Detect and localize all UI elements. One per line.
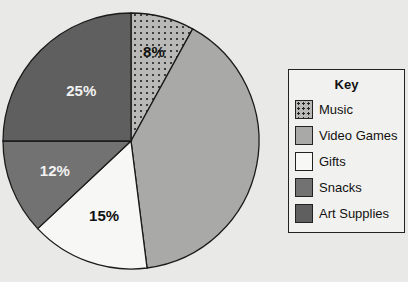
- legend-label: Video Games: [319, 128, 398, 143]
- legend-label: Art Supplies: [319, 206, 389, 221]
- legend-item: Music: [289, 96, 404, 122]
- legend-swatch: [295, 100, 313, 119]
- legend-label: Snacks: [319, 180, 362, 195]
- legend-item: Video Games: [289, 122, 404, 148]
- legend-item: Gifts: [289, 148, 404, 174]
- legend-title: Key: [289, 77, 404, 92]
- legend-swatch: [295, 126, 313, 145]
- legend-label: Music: [319, 102, 353, 117]
- pie-slice-art-supplies: [3, 13, 131, 141]
- legend: Key MusicVideo GamesGiftsSnacksArt Suppl…: [288, 69, 405, 233]
- legend-label: Gifts: [319, 154, 346, 169]
- legend-swatch: [295, 178, 313, 197]
- slice-label: 15%: [89, 207, 119, 224]
- slice-label: 8%: [143, 43, 165, 60]
- slice-label: 12%: [40, 162, 70, 179]
- legend-item: Art Supplies: [289, 200, 404, 226]
- legend-swatch: [295, 152, 313, 171]
- legend-swatch: [295, 204, 313, 223]
- legend-item: Snacks: [289, 174, 404, 200]
- slice-label: 25%: [66, 82, 96, 99]
